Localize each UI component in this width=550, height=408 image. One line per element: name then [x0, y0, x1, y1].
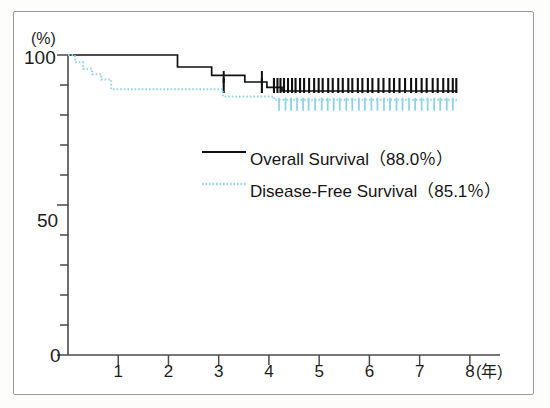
- x-tick-label-5: 5: [306, 362, 332, 382]
- y-tick-label-0: 0: [50, 345, 61, 367]
- legend-line-samples: [202, 152, 246, 184]
- legend-label-overall-survival: Overall Survival（88.0％）: [250, 145, 453, 170]
- x-tick-label-3: 3: [206, 362, 232, 382]
- series-group: [68, 55, 457, 111]
- y-tick-label-50: 50: [37, 210, 58, 232]
- y-tick-label-100: 100: [24, 47, 56, 69]
- x-tick-label-4: 4: [256, 362, 282, 382]
- x-tick-label-1: 1: [105, 362, 131, 382]
- y-axis-unit-label: (%): [31, 30, 56, 48]
- x-tick-label-7: 7: [407, 362, 433, 382]
- survival-plot-canvas: [0, 0, 550, 408]
- kaplan-meier-figure: (%) 100 50 0 12345678 (年) Overall Surviv…: [0, 0, 550, 408]
- legend-label-disease-free-survival: Disease-Free Survival（85.1％）: [250, 177, 501, 202]
- x-tick-label-6: 6: [356, 362, 382, 382]
- x-axis-unit-label: (年): [476, 358, 503, 382]
- x-tick-label-2: 2: [155, 362, 181, 382]
